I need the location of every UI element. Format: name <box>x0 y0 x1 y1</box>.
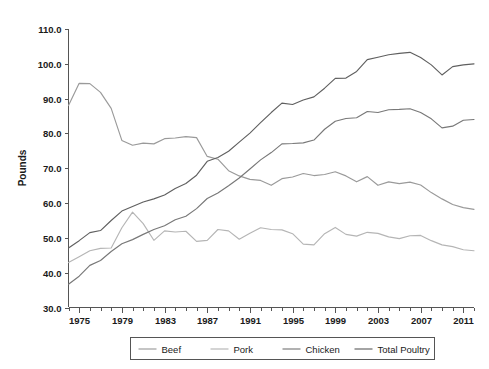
y-tick-label: 50.0 <box>43 233 62 244</box>
legend-label-beef: Beef <box>162 344 182 355</box>
y-tick-label: 80.0 <box>43 128 62 139</box>
line-chart: Pounds 30.040.050.060.070.080.090.0100.0… <box>0 0 489 369</box>
y-tick-label: 70.0 <box>43 163 62 174</box>
chart-container: Pounds 30.040.050.060.070.080.090.0100.0… <box>0 0 489 369</box>
legend-label-pork: Pork <box>234 344 254 355</box>
x-tick-label: 2011 <box>453 315 474 326</box>
y-tick-label: 60.0 <box>43 198 62 209</box>
y-tick-label: 100.0 <box>38 59 62 70</box>
y-tick-label: 110.0 <box>38 24 61 35</box>
x-tick-label: 2007 <box>411 315 432 326</box>
y-tick-label: 40.0 <box>43 268 62 279</box>
chart-legend: BeefPorkChickenTotal Poultry <box>131 338 435 360</box>
x-tick-label: 1975 <box>69 315 91 326</box>
x-tick-label: 1991 <box>240 315 262 326</box>
y-axis-title: Pounds <box>17 149 28 186</box>
y-tick-label: 90.0 <box>43 94 62 105</box>
x-tick-label: 1983 <box>155 315 176 326</box>
x-tick-label: 2003 <box>368 315 389 326</box>
legend-label-total-poultry: Total Poultry <box>378 344 431 355</box>
x-tick-label: 1999 <box>325 315 346 326</box>
x-tick-label: 1979 <box>112 315 133 326</box>
x-tick-label: 1987 <box>197 315 218 326</box>
x-tick-label: 1995 <box>283 315 305 326</box>
y-tick-label: 30.0 <box>43 303 62 314</box>
legend-label-chicken: Chicken <box>306 344 340 355</box>
